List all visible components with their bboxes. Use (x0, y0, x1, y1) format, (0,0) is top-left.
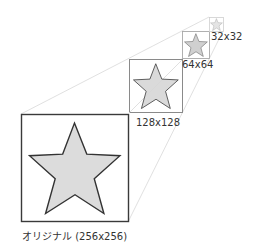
box-32 (210, 18, 224, 32)
label-32: 32x32 (211, 31, 242, 43)
label-original: オリジナル (256x256) (22, 231, 127, 243)
label-128: 128x128 (136, 117, 180, 129)
box-128 (129, 60, 183, 114)
box-original (22, 115, 129, 222)
box-64 (183, 32, 210, 59)
label-64: 64x64 (182, 59, 213, 71)
